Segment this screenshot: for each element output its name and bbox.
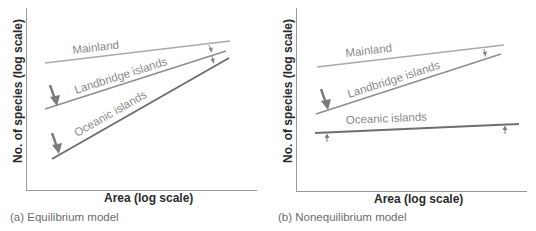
panel-a-arrow-oceanic-small-area — [52, 133, 62, 154]
panel-b-plot: Mainland Landbridge islands Oceanic isla… — [296, 8, 527, 192]
panel-b-x-axis-label: Area (log scale) — [374, 192, 463, 206]
panel-b-caption: (b) Nonequilibrium model — [278, 211, 406, 223]
panel-a-y-axis-label: No. of species (log scale) — [11, 19, 25, 163]
panel-a-landbridge-label: Landbridge islands — [73, 55, 169, 96]
panel-a-arrow-landbridge-large-area — [209, 45, 214, 53]
panel-b-y-axis-label: No. of species (log scale) — [281, 19, 295, 163]
panel-a-oceanic-label: Oceanic islands — [72, 88, 149, 139]
panel-b-arrow-landbridge-large-area — [483, 49, 488, 57]
panel-a-arrow-landbridge-small-area — [50, 85, 60, 106]
panel-b-oceanic-label: Oceanic islands — [346, 110, 428, 126]
panel-a-plot: Mainland Landbridge islands Oceanic isla… — [26, 8, 257, 191]
panel-a-mainland-label: Mainland — [72, 39, 120, 56]
panel-b-mainland-label: Mainland — [345, 42, 393, 59]
panel-a-arrow-oceanic-large-area — [211, 56, 216, 64]
panel-b-arrow-oceanic-large-area — [503, 126, 508, 135]
panel-a-x-axis-label: Area (log scale) — [104, 191, 193, 205]
panel-b-arrow-landbridge-small-area — [321, 89, 331, 110]
panel-b-arrow-oceanic-small-area — [325, 134, 330, 143]
panel-a-caption: (a) Equilibrium model — [10, 211, 119, 223]
panel-b-landbridge-line — [316, 54, 501, 114]
panel-b-landbridge-label: Landbridge islands — [346, 59, 442, 100]
